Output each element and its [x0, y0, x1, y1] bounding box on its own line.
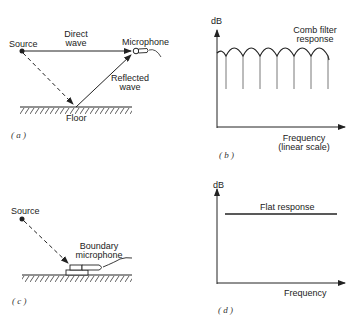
flat-response-label: Flat response	[260, 202, 315, 212]
caption-a: ( a )	[11, 130, 26, 140]
source-label-a: Source	[9, 39, 38, 49]
reflected-wave-label-2: wave	[108, 82, 152, 92]
source-label-c: Source	[11, 206, 40, 216]
x-axis-label-d: Frequency	[284, 288, 327, 298]
boundary-microphone-icon	[66, 258, 132, 275]
source-dot-a	[20, 49, 25, 54]
figure: Source Direct wave Microphone Reflected …	[0, 0, 361, 321]
microphone-icon-a	[133, 48, 161, 57]
incident-wave-arrow	[23, 53, 73, 104]
comb-filter-curve	[217, 48, 329, 60]
comb-notches	[226, 56, 328, 89]
diagram-graphics	[0, 0, 361, 321]
floor-hatch-c	[22, 276, 132, 282]
panel-b-graphics	[217, 30, 345, 128]
source-dot-c	[20, 217, 25, 222]
direct-wave-label-2: wave	[56, 38, 96, 48]
x-axis-label-b-2: (linear scale)	[272, 142, 336, 152]
caption-b: ( b )	[219, 150, 234, 160]
boundary-mic-label-2: microphone	[72, 250, 126, 260]
caption-d: ( d )	[218, 305, 233, 315]
incident-wave-arrow-c	[24, 221, 68, 263]
caption-c: ( c )	[12, 296, 27, 306]
y-axis-label-b: dB	[211, 16, 222, 26]
microphone-label: Microphone	[122, 37, 169, 47]
y-axis-label-d: dB	[213, 180, 224, 190]
floor-label: Floor	[66, 113, 87, 123]
comb-filter-label-2: response	[285, 34, 345, 44]
